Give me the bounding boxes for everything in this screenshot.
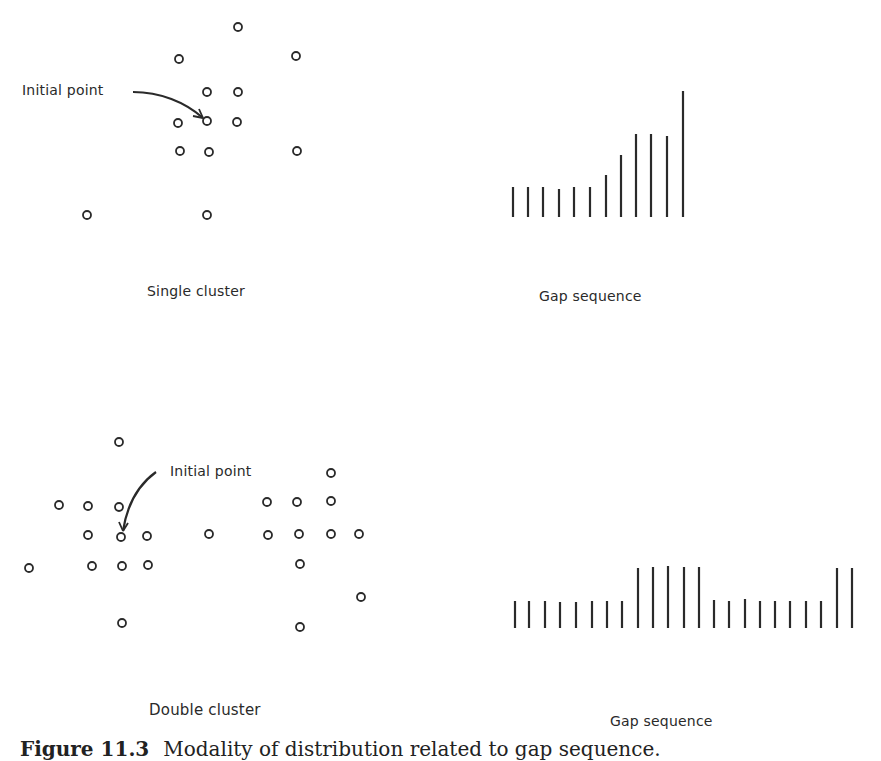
data-point: [296, 623, 304, 631]
single-cluster-scatter: [83, 23, 301, 219]
data-point: [176, 147, 184, 155]
data-point: [115, 503, 123, 511]
data-point: [25, 564, 33, 572]
data-point: [327, 497, 335, 505]
data-point: [143, 532, 151, 540]
initial-point-label-double: Initial point: [170, 463, 252, 479]
data-point: [203, 117, 211, 125]
data-point: [263, 498, 271, 506]
data-point: [144, 561, 152, 569]
data-point: [264, 531, 272, 539]
initial-point-arrow-double: [119, 472, 156, 531]
figure-caption-text: Modality of distribution related to gap …: [163, 737, 660, 761]
data-point: [117, 533, 125, 541]
figure-number: Figure 11.3: [20, 737, 149, 761]
data-point: [203, 88, 211, 96]
data-point: [295, 530, 303, 538]
data-point: [174, 119, 182, 127]
data-point: [293, 498, 301, 506]
double-cluster-label: Double cluster: [149, 701, 261, 719]
gap-sequence-label-bottom: Gap sequence: [610, 713, 713, 729]
data-point: [83, 211, 91, 219]
single-cluster-label: Single cluster: [147, 283, 245, 299]
data-point: [118, 562, 126, 570]
gap-sequence-label-top: Gap sequence: [539, 288, 642, 304]
data-point: [84, 531, 92, 539]
data-point: [234, 88, 242, 96]
data-point: [355, 530, 363, 538]
data-point: [175, 55, 183, 63]
data-point: [55, 501, 63, 509]
data-point: [234, 23, 242, 31]
initial-point-label-single: Initial point: [22, 82, 104, 98]
data-point: [205, 530, 213, 538]
single-gap-sequence-bars: [513, 91, 683, 217]
data-point: [357, 593, 365, 601]
data-point: [233, 118, 241, 126]
data-point: [327, 469, 335, 477]
data-point: [327, 530, 335, 538]
data-point: [203, 211, 211, 219]
data-point: [118, 619, 126, 627]
data-point: [293, 147, 301, 155]
data-point: [115, 438, 123, 446]
data-point: [88, 562, 96, 570]
data-point: [205, 148, 213, 156]
data-point: [296, 560, 304, 568]
initial-point-arrow-single: [133, 92, 203, 118]
data-point: [84, 502, 92, 510]
figure-caption: Figure 11.3Modality of distribution rela…: [20, 737, 661, 761]
double-gap-sequence-bars: [515, 566, 852, 628]
data-point: [292, 52, 300, 60]
